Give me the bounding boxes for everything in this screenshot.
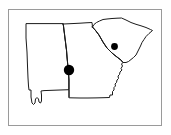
- site-marker-west-dot[interactable]: [64, 65, 74, 75]
- site-marker-east-dot[interactable]: [111, 43, 118, 50]
- region-alabama[interactable]: [26, 24, 69, 105]
- map-figure: [0, 0, 171, 135]
- map-canvas: [0, 0, 171, 135]
